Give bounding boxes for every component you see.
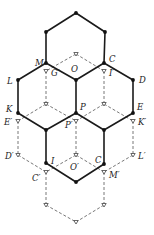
open-vertex-marker-icon <box>44 70 48 74</box>
solid-vertex-dot-icon <box>74 111 78 115</box>
vertex-label: L′ <box>137 151 146 161</box>
vertex-label: M′ <box>108 170 120 180</box>
open-vertex-marker-icon <box>131 154 135 158</box>
open-vertex-marker-icon <box>102 171 106 175</box>
solid-edge <box>76 164 104 182</box>
solid-edge <box>76 63 104 80</box>
solid-vertex-dot-icon <box>102 162 106 166</box>
solid-edge <box>46 13 76 32</box>
vertex-label: I <box>50 156 55 166</box>
open-vertex-marker-icon <box>102 103 106 107</box>
dashed-edge <box>104 104 133 121</box>
open-vertex-marker-icon <box>74 53 78 57</box>
open-vertex-marker-icon <box>16 154 20 158</box>
vertex-label: C <box>95 155 102 165</box>
solid-edge <box>18 113 46 130</box>
vertex-label: O <box>71 64 78 74</box>
solid-vertex-dot-icon <box>44 128 48 132</box>
open-vertex-marker-icon <box>74 120 78 124</box>
vertex-label: M <box>34 58 44 68</box>
open-vertex-marker-icon <box>102 204 106 208</box>
open-vertex-marker-icon <box>102 70 106 74</box>
vertex-label: D′ <box>4 151 14 161</box>
vertex-label: P <box>79 102 86 112</box>
vertex-label: K′ <box>137 117 146 127</box>
vertex-label: K <box>5 104 13 114</box>
vertex-label: O′ <box>70 162 79 172</box>
solid-vertex-dot-icon <box>74 78 78 82</box>
diagram-canvas: MG′OCI′DLKE′PP′EK′D′IO′CL′C′M′ <box>0 0 154 235</box>
dashed-edge <box>18 155 46 172</box>
vertex-label: C′ <box>32 173 41 183</box>
solid-edge <box>104 113 133 130</box>
solid-vertex-dot-icon <box>74 180 78 184</box>
vertex-label: I′ <box>108 68 114 78</box>
dashed-edge <box>76 205 104 222</box>
solid-vertex-dot-icon <box>44 161 48 165</box>
solid-vertex-dot-icon <box>16 111 20 115</box>
vertex-label: E′ <box>3 117 12 127</box>
solid-vertex-dot-icon <box>44 61 48 65</box>
open-vertex-marker-icon <box>44 204 48 208</box>
solid-vertex-dot-icon <box>102 128 106 132</box>
vertex-label: G′ <box>51 68 60 78</box>
dashed-edge <box>18 104 46 121</box>
open-vertex-marker-icon <box>16 120 20 124</box>
open-vertex-marker-icon <box>74 154 78 158</box>
dashed-edge <box>46 205 76 222</box>
open-vertex-marker-icon <box>74 221 78 225</box>
solid-vertex-dot-icon <box>103 30 107 34</box>
solid-vertex-dot-icon <box>16 78 20 82</box>
solid-vertex-dot-icon <box>102 61 106 65</box>
open-vertex-marker-icon <box>44 103 48 107</box>
open-vertex-marker-icon <box>44 171 48 175</box>
vertex-label: C <box>109 54 116 64</box>
solid-vertex-dot-icon <box>131 78 135 82</box>
vertex-label: L <box>6 76 13 86</box>
solid-vertex-dot-icon <box>74 11 78 15</box>
solid-edge <box>104 32 105 63</box>
dashed-edge <box>46 104 76 121</box>
dashed-edge <box>76 54 104 71</box>
open-vertex-marker-icon <box>131 120 135 124</box>
solid-vertex-dot-icon <box>44 30 48 34</box>
vertex-label: D <box>138 75 146 85</box>
hexagon-lattice-diagram: MG′OCI′DLKE′PP′EK′D′IO′CL′C′M′ <box>0 0 154 235</box>
vertex-label: P′ <box>64 120 73 130</box>
solid-edge <box>76 13 105 32</box>
solid-vertex-dot-icon <box>131 111 135 115</box>
vertex-label: E <box>136 102 144 112</box>
solid-edge <box>76 113 104 130</box>
